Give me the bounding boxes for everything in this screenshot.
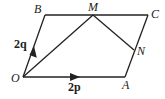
label-a: A	[121, 78, 130, 92]
label-n: N	[136, 44, 146, 58]
label-o: O	[11, 71, 20, 85]
vector-label-ob: 2q	[14, 37, 27, 51]
vector-label-oa: 2p	[68, 80, 81, 94]
parallelogram-diagram: B M C N O A 2q 2p	[0, 0, 165, 99]
label-b: B	[34, 2, 42, 16]
label-c: C	[151, 7, 160, 21]
label-m: M	[87, 0, 99, 14]
segment-mn	[93, 15, 134, 50]
